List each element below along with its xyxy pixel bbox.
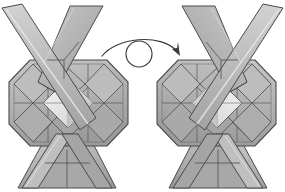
diagram-canvas: [0, 0, 285, 192]
origami-figure-back: [148, 0, 285, 192]
